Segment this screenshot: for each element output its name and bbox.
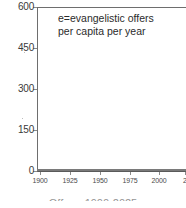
x-tick-label-1925: 1925 <box>53 177 87 185</box>
x-tick-mark-1975 <box>130 172 131 175</box>
scan-speckle <box>22 118 23 119</box>
x-tick-label-1950: 1950 <box>83 177 117 185</box>
x-tick-mark-2025 <box>185 172 186 175</box>
x-tick-mark-1950 <box>100 172 101 175</box>
x-tick-mark-2000 <box>159 172 160 175</box>
series-line-evangelistic-offers <box>37 169 186 171</box>
x-tick-label-1900: 1900 <box>23 177 57 185</box>
y-tick-label-0: 0 <box>0 166 34 176</box>
scan-speckle <box>24 52 25 53</box>
x-tick-label-2025: 2 <box>168 177 186 185</box>
chart-figure: 600 450 300 150 0 1900 1925 1950 1975 20… <box>0 0 186 208</box>
y-tick-label-150: 150 <box>0 125 34 135</box>
chart-annotation: e=evangelistic offers per capita per yea… <box>58 12 154 37</box>
y-tick-label-450: 450 <box>0 43 34 53</box>
y-tick-label-300: 300 <box>0 84 34 94</box>
chart-caption: Offers, 1900-2025 <box>0 197 186 201</box>
x-tick-mark-1925 <box>70 172 71 175</box>
x-tick-mark-1900 <box>40 172 41 175</box>
y-tick-label-600: 600 <box>0 2 34 12</box>
